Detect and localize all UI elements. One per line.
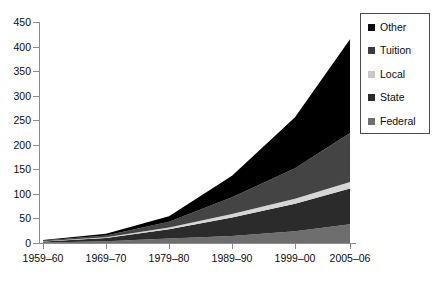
legend-item-tuition[interactable]: Tuition [368,45,411,57]
legend-item-label: Local [380,69,405,80]
y-axis-tick [33,71,39,72]
x-axis-tick-label: 1959–60 [23,252,64,264]
y-axis-tick-label: 250 [1,115,31,125]
legend-item-label: State [380,92,405,103]
legend-swatch-icon [368,71,375,78]
legend-swatch-icon [368,118,375,125]
legend-swatch-icon [368,24,375,31]
x-axis-tick-label: 1989–90 [212,252,253,264]
y-axis-tick [33,194,39,195]
chart-figure: 050100150200250300350400450 1959–601969–… [0,0,432,283]
y-axis-tick [33,120,39,121]
x-axis-tick [232,244,233,249]
y-axis-tick-label: 400 [1,42,31,52]
stacked-area-series-group [40,22,356,243]
y-axis-tick-label: 350 [1,66,31,76]
legend-item-label: Federal [380,116,416,127]
x-axis-tick-label: 1999–00 [275,252,316,264]
y-axis-tick-label: 300 [1,91,31,101]
y-axis-tick [33,47,39,48]
y-axis-tick-label: 0 [1,238,31,248]
x-axis-tick-label: 2005–06 [330,252,371,264]
x-axis-tick [295,244,296,249]
x-axis-tick-label: 1969–70 [86,252,127,264]
legend-item-label: Tuition [380,45,411,56]
x-axis-tick [106,244,107,249]
plot-area [40,22,356,243]
legend-item-state[interactable]: State [368,92,405,104]
legend-swatch-icon [368,47,375,54]
y-axis-tick [33,243,39,244]
y-axis-tick-label: 100 [1,189,31,199]
x-axis-tick-label: 1979–80 [149,252,190,264]
y-axis-line [39,22,40,244]
y-axis-tick [33,145,39,146]
y-axis-tick-label: 200 [1,140,31,150]
y-axis-tick [33,22,39,23]
y-axis-tick [33,169,39,170]
y-axis-tick-label: 150 [1,164,31,174]
legend-item-local[interactable]: Local [368,68,405,80]
legend: OtherTuitionLocalStateFederal [360,13,430,134]
legend-item-federal[interactable]: Federal [368,115,416,127]
legend-item-other[interactable]: Other [368,21,406,33]
legend-swatch-icon [368,94,375,101]
x-axis-tick [169,244,170,249]
x-axis-line [39,243,356,244]
y-axis-tick [33,218,39,219]
x-axis-tick [43,244,44,249]
y-axis-tick [33,96,39,97]
y-axis-tick-label: 50 [1,213,31,223]
legend-item-label: Other [380,22,406,33]
x-axis-tick [350,244,351,249]
y-axis-tick-label: 450 [1,17,31,27]
